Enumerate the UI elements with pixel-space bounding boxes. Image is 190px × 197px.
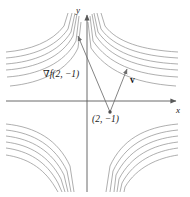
level-curves-figure: y x ∇f(2, −1) (2, −1) v [0,0,190,197]
level-curves-lower-right [106,124,178,192]
x-axis-label: x [176,106,180,115]
gradient-label-text: f(2, −1) [50,69,80,79]
y-axis-label: y [76,6,80,15]
v-vector-label: v [130,76,135,86]
plot-canvas [0,0,190,197]
point-label: (2, −1) [92,115,119,125]
v-vector-arrow [110,69,127,112]
gradient-label: ∇f(2, −1) [43,70,79,80]
level-curves-lower-left [6,124,74,192]
nabla-icon: ∇ [43,69,50,79]
